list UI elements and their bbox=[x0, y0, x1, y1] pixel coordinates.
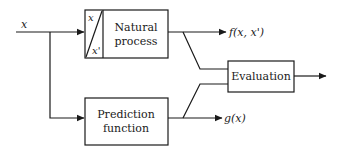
evaluation-block: Evaluation bbox=[228, 61, 294, 92]
natural-process-block: x x' Natural process bbox=[85, 10, 168, 58]
natural-sub-x-prime: x' bbox=[92, 45, 100, 56]
prediction-label-1: Prediction bbox=[97, 108, 155, 121]
natural-output-label: f(x, x') bbox=[228, 26, 264, 39]
prediction-output-label: g(x) bbox=[224, 112, 246, 125]
prediction-function-block: Prediction function bbox=[85, 98, 168, 145]
prediction-label-2: function bbox=[103, 122, 149, 135]
natural-process-label-1: Natural bbox=[114, 21, 158, 34]
input-x-label: x bbox=[21, 18, 28, 31]
natural-process-label-2: process bbox=[115, 35, 158, 48]
natural-output-wire bbox=[168, 32, 228, 69]
supervised-learning-diagram: x x x' Natural process f(x, x') Evaluati… bbox=[0, 0, 340, 157]
natural-sub-x: x bbox=[88, 12, 94, 23]
evaluation-label: Evaluation bbox=[231, 70, 291, 83]
prediction-output-wire bbox=[168, 84, 228, 118]
input-x-wire bbox=[16, 32, 84, 118]
